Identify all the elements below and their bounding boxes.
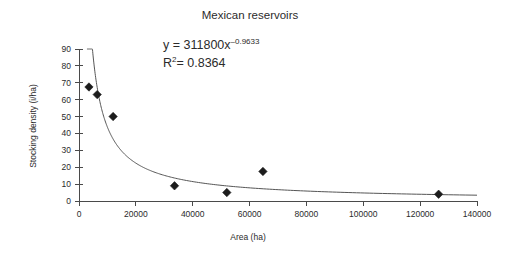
y-tick-label: 40: [62, 128, 72, 138]
r-squared-annotation: R2= 0.8364: [163, 55, 226, 70]
y-tick-label: 20: [62, 162, 72, 172]
chart-container: Mexican reservoirs y = 311800x–0.9633 R2…: [0, 0, 512, 263]
y-tick-label: 30: [62, 145, 72, 155]
y-tick-label: 50: [62, 112, 72, 122]
r2-value: = 0.8364: [176, 56, 225, 70]
data-point-marker: [170, 182, 178, 190]
x-tick-label: 20000: [124, 209, 148, 219]
trendline-curve: [87, 49, 477, 195]
y-tick-label: 60: [62, 95, 72, 105]
equation-prefix: y = 311800x: [163, 38, 231, 52]
x-tick-label: 40000: [181, 209, 205, 219]
data-point-marker: [109, 112, 117, 120]
r2-symbol: R: [163, 56, 172, 70]
data-point-marker: [93, 90, 101, 98]
y-tick-label: 90: [62, 44, 72, 54]
x-tick-label: 80000: [295, 209, 319, 219]
y-axis-ticks: 0102030405060708090: [62, 44, 83, 206]
x-tick-label: 120000: [406, 209, 435, 219]
data-point-marker: [223, 188, 231, 196]
y-tick-label: 70: [62, 78, 72, 88]
y-tick-label: 80: [62, 61, 72, 71]
x-tick-label: 60000: [238, 209, 262, 219]
y-tick-label: 10: [62, 179, 72, 189]
data-point-markers: [85, 83, 443, 199]
equation-exponent: –0.9633: [231, 37, 260, 46]
y-tick-label: 0: [66, 196, 71, 206]
data-point-marker: [259, 167, 267, 175]
chart-title: Mexican reservoirs: [202, 9, 299, 21]
x-tick-label: 140000: [463, 209, 492, 219]
x-tick-label: 100000: [349, 209, 378, 219]
x-tick-label: 0: [77, 209, 82, 219]
x-axis-ticks: 020000400006000080000100000120000140000: [77, 201, 492, 219]
data-point-marker: [85, 83, 93, 91]
trendline-equation: y = 311800x–0.9633: [163, 37, 260, 52]
x-axis-title: Area (ha): [230, 232, 266, 242]
mexican-reservoirs-scatter-chart: Mexican reservoirs y = 311800x–0.9633 R2…: [0, 0, 512, 263]
y-axis-title: Stocking density (i/ha): [28, 84, 38, 168]
data-point-marker: [434, 190, 442, 198]
